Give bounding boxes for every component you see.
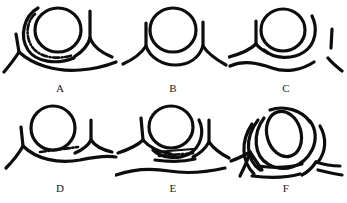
panel-e-right-branch-right <box>209 142 229 158</box>
figure-panel-c: C <box>228 0 344 100</box>
panel-f-right-junction-arm1 <box>302 162 316 175</box>
panel-e-lower-wavy-line <box>116 168 225 175</box>
panel-e-circle <box>149 106 193 148</box>
panel-c-circle <box>261 9 305 51</box>
panel-b-label: B <box>115 82 231 94</box>
panel-f-right-junction-stem <box>316 162 340 166</box>
figure-panel-d: D <box>2 102 118 202</box>
panel-f-ring-1 <box>256 118 315 168</box>
panel-f-lower-strand <box>252 174 300 177</box>
panel-e-left-branch-stem <box>141 118 143 140</box>
panel-b-bottom-arc <box>146 46 203 65</box>
panel-f-right-outer-arc <box>318 126 325 162</box>
panel-a-left-branch-stem <box>16 34 19 52</box>
panel-d-circle <box>31 106 75 150</box>
panel-d-left-branch-stem <box>21 127 23 146</box>
panel-b-right-branch-outer <box>203 46 226 65</box>
figure-root: A B <box>0 0 347 203</box>
panel-e-drawing <box>115 102 231 186</box>
panel-c-left-junction-arm <box>229 44 256 57</box>
panel-d-right-branch-right <box>91 140 112 152</box>
panel-a-label: A <box>2 82 118 94</box>
panel-b-drawing <box>115 0 231 84</box>
figure-panel-e: E <box>115 102 231 202</box>
panel-b-left-branch-outer <box>123 46 146 64</box>
panel-d-drawing <box>2 102 118 186</box>
panel-a-outer-arc <box>23 8 74 62</box>
figure-panel-a: A <box>2 0 118 100</box>
panel-e-left-branch-left <box>118 140 143 153</box>
panel-f-right-junction-arm2 <box>318 170 342 175</box>
figure-panel-b: B <box>115 0 231 100</box>
panel-f-inner-oval <box>261 107 306 161</box>
figure-panel-f: F <box>228 102 344 202</box>
panel-a-left-branch-lower <box>4 52 19 72</box>
panel-c-lower-wavy-line <box>230 62 314 70</box>
panel-a-right-branch-right <box>90 38 112 57</box>
panel-f-mid-strand <box>258 164 302 167</box>
panel-b-circle <box>150 8 196 52</box>
panel-e-corridor-upper-line <box>156 149 193 152</box>
panel-f-label: F <box>228 182 344 194</box>
panel-c-drawing <box>228 0 344 84</box>
panel-a-drawing <box>2 0 118 84</box>
panel-c-right-diagonal-bar <box>328 58 342 71</box>
panel-c-label: C <box>228 82 344 94</box>
panel-f-drawing <box>228 102 344 186</box>
panel-e-corridor-lower-line <box>155 159 195 161</box>
panel-a-circle <box>35 8 81 52</box>
panel-d-left-branch-lower <box>6 146 23 168</box>
panel-d-label: D <box>2 182 118 194</box>
panel-c-right-vertical-bar <box>331 29 332 48</box>
panel-e-label: E <box>115 182 231 194</box>
